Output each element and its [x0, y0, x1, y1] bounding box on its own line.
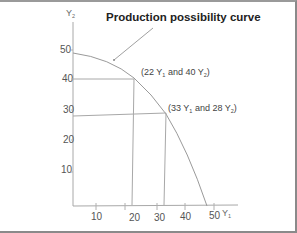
x-axis-label: Y1: [222, 208, 231, 219]
x-tick-20: 20: [129, 212, 141, 223]
x-tick-30: 30: [154, 212, 166, 223]
x-tick-50: 50: [209, 210, 221, 221]
x-tick-10: 10: [91, 211, 103, 222]
x-ticks: [96, 203, 214, 210]
point2-label: (33 Y1 and 28 Y2): [168, 103, 237, 114]
y-tick-50: 50: [60, 44, 72, 55]
y-axis-label: Y2: [66, 8, 75, 19]
x-tick-40: 40: [180, 211, 192, 222]
point1-label: (22 Y1 and 40 Y2): [141, 67, 210, 78]
ppc-chart: Production possibility curve Y2 50 40 30…: [0, 0, 297, 233]
x-tick-labels: 10 20 30 40 50: [91, 210, 221, 223]
y-tick-10: 10: [61, 164, 73, 175]
point1-vertical: [132, 79, 134, 205]
title-arrow: [114, 28, 153, 60]
point2-vertical: [164, 113, 166, 205]
chart-title: Production possibility curve: [106, 11, 261, 23]
point2-horizontal: [73, 113, 166, 116]
arrow-tip: [113, 59, 115, 61]
x-axis: [73, 205, 238, 206]
